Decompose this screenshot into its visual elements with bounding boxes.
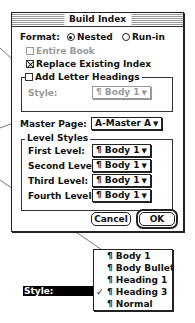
heading-style-label: Style: <box>28 88 57 99</box>
radio-selected-icon <box>67 33 75 41</box>
format-row: Format: Nested Run-in <box>20 32 165 43</box>
ok-button[interactable]: OK <box>139 212 175 226</box>
fourth-level-label: Fourth Level: <box>28 191 95 202</box>
fourth-level-popup[interactable]: ¶ Body 1▼ <box>92 189 151 202</box>
title-bar[interactable]: Build Index <box>12 13 183 27</box>
add-letter-headings-checkbox[interactable]: Add Letter Headings <box>25 72 142 83</box>
style-popup-menu: ¶ Body 1 ¶ Body Bullet ¶ Heading 1 ✓ ¶ H… <box>93 249 173 311</box>
dropdown-arrow-icon: ▼ <box>142 89 147 97</box>
dropdown-arrow-icon: ▼ <box>142 162 147 170</box>
radio-nested[interactable]: Nested <box>67 32 116 42</box>
second-level-label: Second Level: <box>28 161 99 172</box>
second-level-popup[interactable]: ¶ Body 1▼ <box>92 159 151 172</box>
dropdown-arrow-icon: ▼ <box>142 177 147 185</box>
build-index-dialog: Build Index Format: Nested Run-in Entire… <box>11 12 184 232</box>
master-page-label: Master Page: <box>20 119 87 130</box>
third-level-popup[interactable]: ¶ Body 1▼ <box>92 174 151 187</box>
checkbox-checked-icon <box>26 60 34 68</box>
entire-book-checkbox[interactable]: Entire Book <box>26 46 95 57</box>
master-page-popup[interactable]: A-Master A▼ <box>91 117 162 130</box>
first-level-popup[interactable]: ¶ Body 1▼ <box>92 144 151 157</box>
dropdown-arrow-icon: ▼ <box>153 120 158 128</box>
heading-style-popup[interactable]: ¶ Body 1▼ <box>92 86 151 99</box>
first-level-label: First Level: <box>28 146 85 157</box>
format-label: Format: <box>20 32 60 42</box>
radio-unselected-icon <box>122 33 130 41</box>
dropdown-arrow-icon: ▼ <box>142 192 147 200</box>
third-level-label: Third Level: <box>28 176 88 187</box>
dialog-title: Build Index <box>64 13 131 26</box>
checkbox-icon <box>26 47 34 55</box>
checkmark-icon: ✓ <box>96 287 104 298</box>
level-styles-title: Level Styles <box>25 133 90 143</box>
ok-button-default-ring[interactable]: OK <box>136 209 178 229</box>
style-label-highlighted: Style: <box>23 286 94 296</box>
radio-run-in[interactable]: Run-in <box>122 32 165 42</box>
replace-existing-index-checkbox[interactable]: Replace Existing Index <box>26 59 151 70</box>
dropdown-arrow-icon: ▼ <box>142 147 147 155</box>
cancel-button[interactable]: Cancel <box>91 212 131 226</box>
checkbox-icon <box>25 73 33 81</box>
